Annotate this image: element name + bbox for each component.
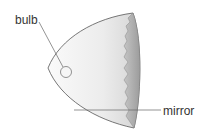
bulb-leader-line bbox=[39, 22, 63, 67]
bulb-label: bulb bbox=[15, 14, 38, 26]
mirror-label: mirror bbox=[163, 105, 194, 117]
bulb-icon bbox=[61, 67, 72, 78]
